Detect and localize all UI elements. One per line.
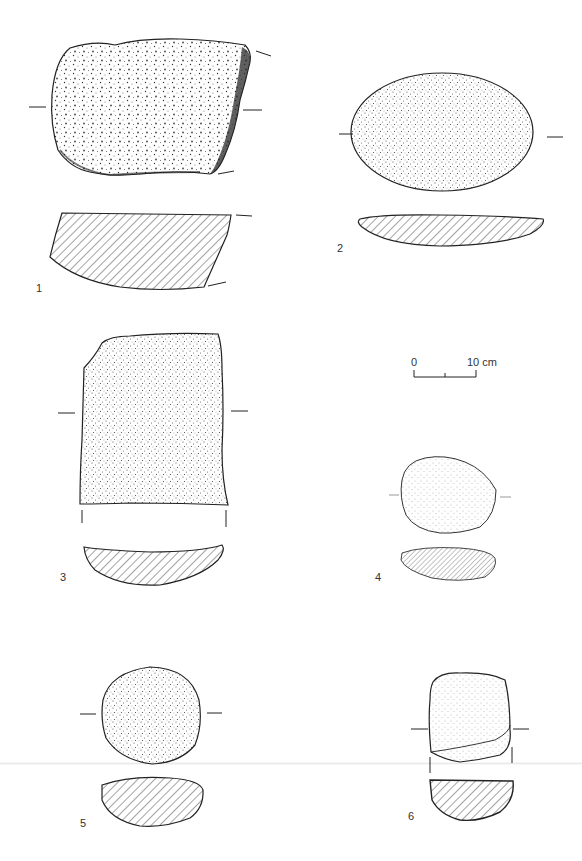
object-6-plan xyxy=(429,673,510,762)
object-3 xyxy=(58,333,248,585)
object-1-number: 1 xyxy=(36,283,42,294)
object-5-number: 5 xyxy=(80,818,86,829)
object-3-number: 3 xyxy=(60,572,66,583)
illustration-plate xyxy=(0,0,582,861)
object-1 xyxy=(29,39,271,290)
object-6 xyxy=(411,673,529,820)
object-5-plan xyxy=(102,667,200,764)
object-2-section xyxy=(358,215,543,246)
object-1-section xyxy=(50,213,231,290)
object-2-plan xyxy=(351,73,533,191)
object-4 xyxy=(389,457,511,581)
object-2 xyxy=(339,73,563,246)
scale-bar-end-label: 10 cm xyxy=(467,357,497,368)
scale-bar xyxy=(414,370,476,377)
object-4-number: 4 xyxy=(375,572,381,583)
object-6-number: 6 xyxy=(408,811,414,822)
object-3-plan xyxy=(80,333,228,505)
object-5 xyxy=(80,667,222,826)
object-2-number: 2 xyxy=(337,243,343,254)
object-3-section xyxy=(84,545,223,585)
object-5-section xyxy=(102,777,203,826)
object-4-plan xyxy=(401,457,496,533)
scale-bar-start-label: 0 xyxy=(411,357,417,368)
object-6-section xyxy=(430,780,513,820)
object-4-section xyxy=(401,548,496,581)
